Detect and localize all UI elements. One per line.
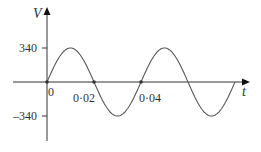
- sine-chart: V t 340 –340 0 0·02 0·04: [0, 0, 261, 152]
- y-tick-label-340: 340: [19, 41, 37, 55]
- x-axis-label: t: [242, 84, 247, 99]
- x-tick-label-0: 0: [48, 85, 54, 99]
- point-0-04: [139, 80, 143, 84]
- x-tick-label-0-04: 0·04: [139, 91, 161, 105]
- x-tick-label-0-02: 0·02: [73, 91, 95, 105]
- y-axis-arrow-icon: [44, 7, 51, 15]
- y-tick-label-neg340: –340: [12, 109, 37, 123]
- origin-point: [45, 80, 49, 84]
- point-0-02: [92, 80, 96, 84]
- y-axis-label: V: [33, 6, 43, 21]
